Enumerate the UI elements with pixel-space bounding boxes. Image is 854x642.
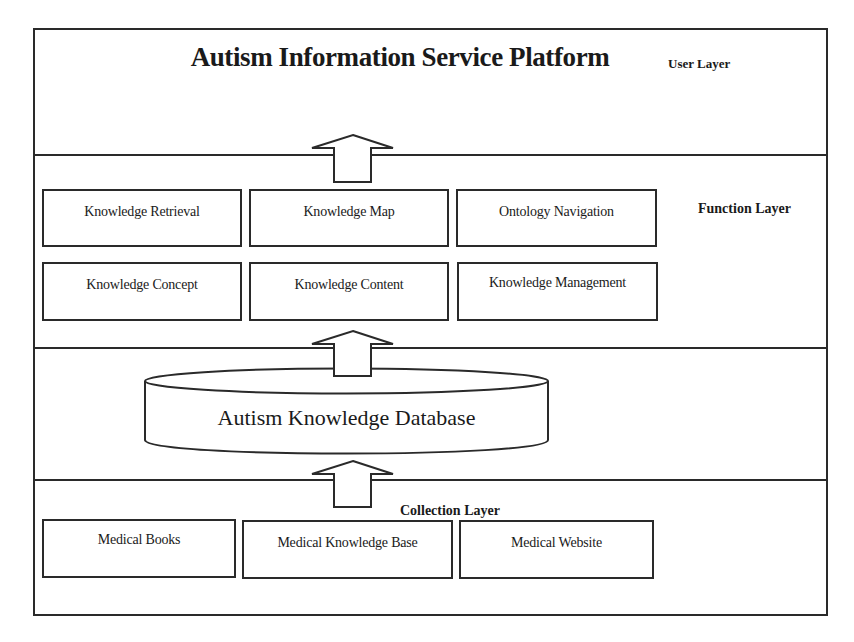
- arrow-up-icon: [312, 135, 393, 182]
- database-label: Autism Knowledge Database: [145, 405, 548, 431]
- collection-layer-label: Collection Layer: [400, 503, 500, 519]
- source-medical-knowledge-base: Medical Knowledge Base: [242, 520, 453, 579]
- source-medical-website: Medical Website: [459, 520, 654, 579]
- source-medical-books: Medical Books: [42, 519, 236, 578]
- arrow-up-icon: [312, 461, 393, 507]
